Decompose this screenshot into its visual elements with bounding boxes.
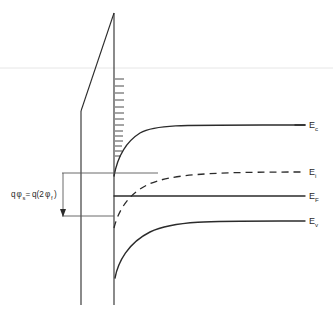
band-diagram-figure: E c E i E F E v q φ s = q(2 φ f ) [0, 0, 333, 319]
sp-q1: q [11, 190, 16, 199]
label-ev-sub: v [315, 221, 319, 228]
sp-sub2: f [51, 195, 53, 201]
sp-open: q(2 [32, 190, 44, 199]
sp-phi1: φ [17, 190, 22, 199]
label-ev-group: E v [309, 216, 319, 228]
sp-phi2: φ [45, 190, 50, 199]
sp-equals: = [26, 190, 31, 199]
sp-close: ) [54, 190, 57, 199]
oxide-conduction-band-slope [81, 13, 114, 111]
label-ei-sub: i [315, 172, 316, 179]
label-ec-group: E c [309, 120, 318, 132]
label-ef-group: E F [309, 191, 319, 203]
oxide-hatching-group [115, 79, 124, 156]
surface-potential-label-group: q φ s = q(2 φ f ) [11, 190, 57, 201]
label-ei-group: E i [309, 167, 316, 179]
conduction-band-curve-ec [114, 125, 305, 176]
band-diagram-canvas: E c E i E F E v q φ s = q(2 φ f ) [0, 0, 333, 319]
valence-band-curve-ev [115, 221, 305, 278]
label-ec-sub: c [315, 125, 318, 132]
label-ef-sub: F [315, 196, 319, 203]
intrinsic-level-curve-ei [114, 172, 305, 228]
